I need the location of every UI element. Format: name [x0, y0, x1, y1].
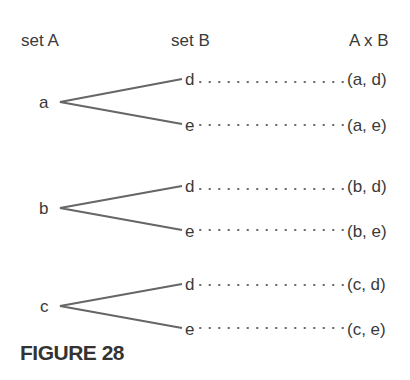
set-b-element: d [185, 276, 194, 293]
branches [60, 79, 182, 328]
set-b-element: e [185, 321, 194, 338]
ordered-pair: (c, e) [347, 321, 386, 338]
figure-caption: FIGURE 28 [20, 341, 124, 365]
ordered-pair: (b, d) [347, 178, 387, 195]
ordered-pair: (c, d) [347, 276, 386, 293]
ordered-pair: (a, e) [347, 117, 387, 134]
set-b-element: e [185, 223, 194, 240]
ordered-pair: (b, e) [347, 223, 387, 240]
set-a-element: b [39, 200, 48, 217]
ordered-pair: (a, d) [347, 71, 387, 88]
set-a-element: c [40, 298, 49, 315]
dotted-connectors [200, 82, 343, 328]
set-b-element: e [185, 117, 194, 134]
set-b-element: d [185, 71, 194, 88]
set-b-element: d [185, 178, 194, 195]
set-a-element: a [39, 94, 48, 111]
